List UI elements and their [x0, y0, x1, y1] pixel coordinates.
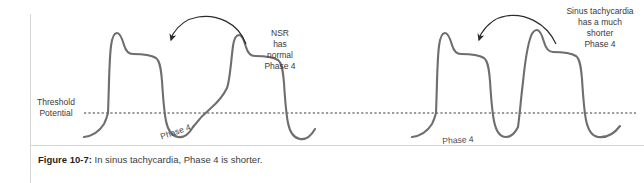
nsr-annotation-line1: NSR [248, 28, 312, 39]
figure-caption: Figure 10-7: In sinus tachycardia, Phase… [38, 154, 262, 165]
threshold-potential-label-line2: Potential [30, 108, 82, 119]
tachycardia-annotation-line3: shorter [556, 28, 644, 39]
nsr-annotation: NSR has normal Phase 4 [248, 28, 312, 72]
tachycardia-annotation-line2: has a much [556, 17, 644, 28]
tachycardia-callout-arrow [479, 15, 556, 44]
figure-caption-text: In sinus tachycardia, Phase 4 is shorter… [92, 154, 263, 165]
nsr-annotation-line3: normal [248, 50, 312, 61]
tachycardia-annotation-line4: Phase 4 [556, 39, 644, 50]
figure-container: Threshold Potential NSR has normal Phase… [0, 0, 644, 183]
figure-caption-number: Figure 10-7: [38, 154, 92, 165]
threshold-potential-label: Threshold Potential [30, 97, 82, 119]
nsr-annotation-line4: Phase 4 [248, 61, 312, 72]
tachycardia-annotation: Sinus tachycardia has a much shorter Pha… [556, 6, 644, 50]
nsr-trace-beat-1 [84, 33, 193, 137]
nsr-annotation-line2: has [248, 39, 312, 50]
tachycardia-trace-beat-1 [412, 33, 518, 137]
threshold-potential-label-line1: Threshold [30, 97, 82, 108]
tachycardia-annotation-line1: Sinus tachycardia [556, 6, 644, 17]
